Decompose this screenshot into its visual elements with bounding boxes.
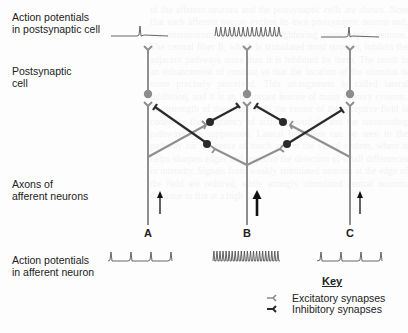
- interneuron-b-right: [283, 140, 291, 148]
- soma-a: [144, 90, 152, 98]
- afferent-trace-c: [317, 252, 382, 261]
- key-inhibitory-symbol: [267, 306, 276, 312]
- figure-canvas: of the afferent neurons and the postsyna…: [0, 0, 408, 333]
- pathway-label-b: B: [243, 227, 251, 239]
- postsynaptic-trace-b: [215, 27, 282, 36]
- pathway-label-a: A: [144, 227, 152, 239]
- inhib-c-to-b: [256, 106, 282, 121]
- branch-b-right: [247, 149, 280, 165]
- branch-b-left: [215, 149, 247, 165]
- soma-c: [346, 90, 354, 98]
- neural-circuit-diagram: [0, 0, 408, 333]
- postsynaptic-somas: [144, 90, 354, 98]
- key-inhibitory-label: Inhibitory synapses: [292, 303, 382, 315]
- inhib-a-to-b: [211, 106, 239, 121]
- postsynaptic-trace-c: [321, 27, 379, 37]
- key-title: Key: [322, 275, 342, 287]
- interneuron-c: [279, 118, 287, 126]
- pathway-label-c: C: [346, 227, 354, 239]
- postsynaptic-trace-a: [111, 26, 168, 36]
- branch-a-to-interneuron: [148, 125, 206, 157]
- interneuron-a: [206, 118, 214, 126]
- branch-c-to-interneuron: [290, 125, 350, 157]
- afferent-trace-b: [213, 251, 280, 261]
- postsynaptic-processes: [144, 46, 354, 90]
- interneuron-b-left: [203, 140, 211, 148]
- key-excitatory-symbol: [267, 295, 276, 301]
- soma-b: [243, 90, 251, 98]
- afferent-trace-a: [108, 252, 172, 261]
- signal-direction-arrows: [157, 190, 363, 216]
